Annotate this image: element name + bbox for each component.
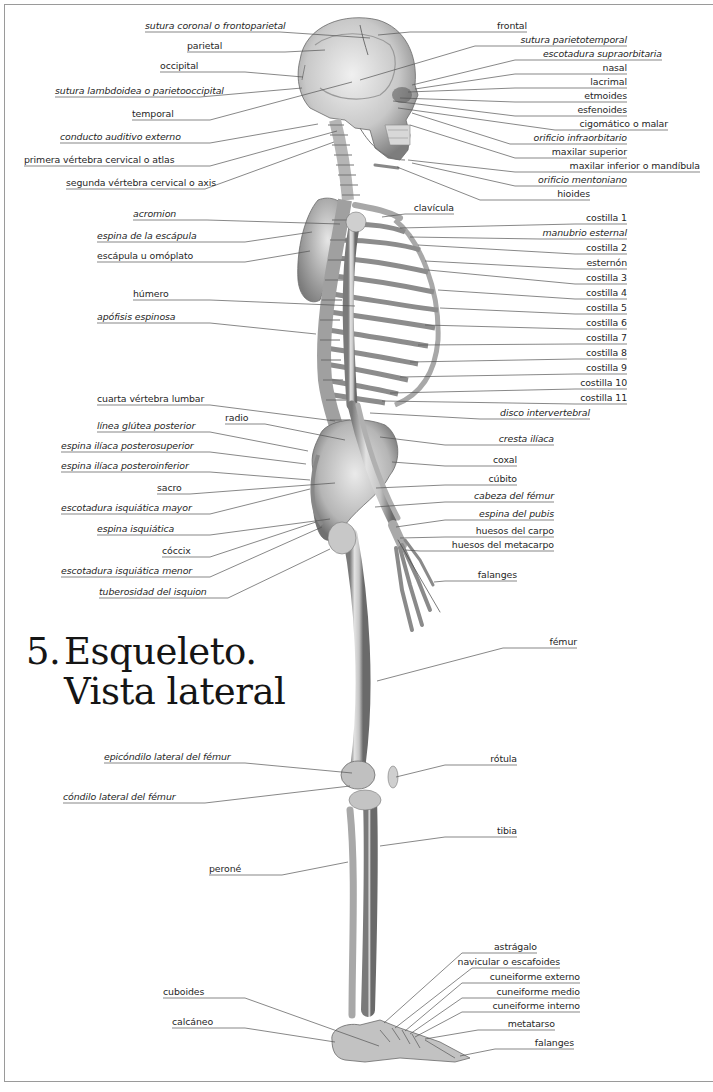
label-cuarta-lumbar: cuarta vértebra lumbar xyxy=(97,393,204,404)
title-line-1: Esqueleto. xyxy=(64,630,256,673)
label-sacro: sacro xyxy=(157,482,182,493)
label-espina-escapula: espina de la escápula xyxy=(97,230,197,241)
label-nasal: nasal xyxy=(603,62,627,73)
leader-line xyxy=(412,113,510,144)
label-calcaneo: calcáneo xyxy=(172,1016,213,1027)
leader-line xyxy=(400,537,445,538)
leader-line xyxy=(412,60,515,85)
label-clavicula: clavícula xyxy=(414,202,454,213)
leader-line xyxy=(415,74,515,89)
leader-line xyxy=(395,968,472,1028)
label-cabeza-femur: cabeza del fémur xyxy=(474,490,554,501)
leader-line xyxy=(410,359,575,362)
leader-line xyxy=(210,519,330,535)
label-metatarso: metatarso xyxy=(508,1018,555,1029)
leader-line xyxy=(434,581,445,582)
title-number: 5. xyxy=(26,632,64,672)
leader-line xyxy=(418,344,575,345)
label-costilla-8: costilla 8 xyxy=(586,347,627,358)
label-cubito: cúbito xyxy=(489,473,517,484)
leader-line xyxy=(425,1030,478,1039)
leader-line xyxy=(285,50,325,52)
leader-line xyxy=(408,88,515,92)
label-cuneiforme-interno: cuneiforme interno xyxy=(492,1000,580,1011)
leader-line xyxy=(245,1028,335,1042)
label-huesos-metacarpo: huesos del metacarpo xyxy=(452,539,554,550)
label-escotadura-menor: escotadura isquiática menor xyxy=(61,565,192,576)
leader-line xyxy=(190,483,335,494)
leader-line xyxy=(384,953,462,1023)
label-astragalo: astrágalo xyxy=(494,941,537,952)
label-costilla-2: costilla 2 xyxy=(586,242,627,253)
leader-line xyxy=(375,502,445,507)
label-occipital: occipital xyxy=(160,60,198,71)
page-title: 5.Esqueleto. Vista lateral xyxy=(26,632,285,712)
label-maxilar-superior: maxilar superior xyxy=(552,146,627,157)
leader-line xyxy=(245,763,352,773)
label-espina-posteroinferior: espina ilíaca posteroinferior xyxy=(61,460,189,471)
label-coxal: coxal xyxy=(493,454,517,465)
leader-line xyxy=(282,862,348,875)
label-orificio-mentoniano: orificio mentoniano xyxy=(538,174,627,185)
label-escotadura-mayor: escotadura isquiática mayor xyxy=(61,502,192,513)
leader-line xyxy=(210,124,318,143)
label-espina-isquiatica: espina isquiática xyxy=(97,523,174,534)
leader-line xyxy=(280,32,370,38)
leader-line xyxy=(400,374,575,377)
leader-line xyxy=(405,983,462,1031)
label-radio: radio xyxy=(225,412,248,423)
leader-line xyxy=(382,401,575,404)
label-costilla-1: costilla 1 xyxy=(586,212,627,223)
label-espina-pubis: espina del pubis xyxy=(479,508,554,519)
label-manubrio: manubrio esternal xyxy=(543,227,627,238)
leader-line xyxy=(380,837,445,846)
label-escapula: escápula u omóplato xyxy=(97,250,193,261)
leader-line xyxy=(210,82,352,120)
leader-line xyxy=(210,300,355,306)
leader-line xyxy=(210,522,316,557)
leader-line xyxy=(397,167,480,200)
leader-line xyxy=(415,1012,462,1037)
leader-line xyxy=(440,308,575,314)
leader-line xyxy=(390,389,575,393)
label-temporal: temporal xyxy=(132,108,174,119)
leader-line xyxy=(228,549,330,598)
leader-line xyxy=(245,998,379,1046)
leader-line xyxy=(210,472,310,480)
label-cigomatico: cigomático o malar xyxy=(580,118,668,129)
label-costilla-4: costilla 4 xyxy=(586,287,627,298)
leader-line xyxy=(393,101,515,116)
label-navicular: navicular o escafoides xyxy=(458,956,560,967)
label-sutura-lambdoidea: sutura lambdoidea o parietooccipital xyxy=(55,85,224,96)
label-maxilar-inferior: maxilar inferior o mandíbula xyxy=(570,160,700,171)
label-falanges-mano: falanges xyxy=(478,569,517,580)
leader-line xyxy=(245,232,312,242)
label-esternon: esternón xyxy=(586,257,627,268)
label-falanges-pie: falanges xyxy=(535,1037,574,1048)
leader-line xyxy=(380,437,445,445)
label-lacrimal: lacrimal xyxy=(590,76,627,87)
label-espina-posterosuperior: espina ilíaca posterosuperior xyxy=(61,440,194,451)
label-orificio-infraorbitario: orificio infraorbitario xyxy=(534,132,627,143)
label-parietal: parietal xyxy=(187,40,222,51)
label-cuneiforme-externo: cuneiforme externo xyxy=(490,971,580,982)
label-escotadura-supraorbitaria: escotadura supraorbitaria xyxy=(543,48,662,59)
leader-line xyxy=(360,46,475,80)
label-costilla-7: costilla 7 xyxy=(586,332,627,343)
leader-line xyxy=(210,527,322,577)
leader-line xyxy=(405,550,420,551)
leader-line xyxy=(425,261,575,269)
leader-line xyxy=(205,786,350,803)
leader-line xyxy=(392,462,445,466)
label-sutura-coronal: sutura coronal o frontoparietal xyxy=(145,20,286,31)
label-cresta-iliaca: cresta ilíaca xyxy=(499,433,554,444)
label-atlas: primera vértebra cervical o atlas xyxy=(24,154,175,165)
leader-line xyxy=(396,520,445,527)
label-costilla-11: costilla 11 xyxy=(580,392,627,403)
leader-line xyxy=(210,131,337,166)
label-costilla-5: costilla 5 xyxy=(586,302,627,313)
label-tuberosidad-isquion: tuberosidad del isquion xyxy=(99,586,207,597)
leader-line xyxy=(396,765,445,777)
label-etmoides: etmoides xyxy=(584,90,627,101)
leader-line xyxy=(210,452,306,464)
